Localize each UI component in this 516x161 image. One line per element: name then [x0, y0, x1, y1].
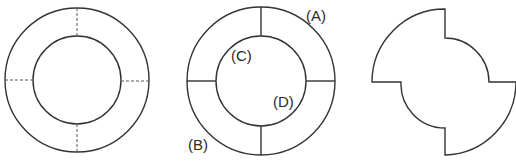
figure-pinwheel — [372, 9, 516, 155]
figure-ring-labeled: (A) (B) (C) (D) — [187, 7, 335, 155]
inner-circle — [216, 36, 306, 126]
inner-circle — [33, 36, 121, 124]
label-b: (B) — [188, 136, 208, 153]
label-c: (C) — [231, 47, 252, 64]
diagram-canvas: (A) (B) (C) (D) — [0, 0, 516, 161]
label-d: (D) — [273, 93, 294, 110]
figure-ring-dashed — [5, 8, 149, 152]
pinwheel-outline — [372, 9, 516, 155]
label-a: (A) — [306, 7, 326, 24]
